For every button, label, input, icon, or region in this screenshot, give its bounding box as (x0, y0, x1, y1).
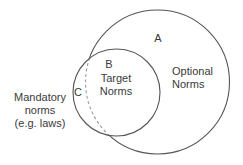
mandatory-norms-label: Mandatory norms (e.g. laws) (14, 91, 66, 130)
set-b-letter: B (105, 58, 112, 71)
mandatory-label-line-1: Mandatory (14, 91, 66, 104)
set-a-label-line-2: Norms (172, 78, 213, 91)
set-a-letter: A (154, 32, 161, 45)
set-a-label-line-1: Optional (172, 65, 213, 78)
region-c-letter: C (74, 86, 82, 99)
set-a-label: Optional Norms (172, 65, 213, 91)
mandatory-label-line-2: norms (14, 104, 66, 117)
set-b-label: Target Norms (100, 72, 132, 98)
mandatory-label-line-3: (e.g. laws) (14, 117, 66, 130)
venn-diagram: A Optional Norms B Target Norms C Mandat… (0, 0, 243, 165)
set-b-label-line-2: Norms (100, 85, 132, 98)
set-b-label-line-1: Target (100, 72, 132, 85)
